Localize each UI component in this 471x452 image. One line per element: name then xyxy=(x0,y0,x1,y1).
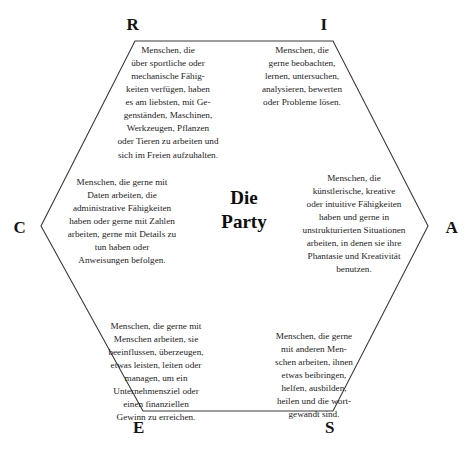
segment-text-conventional: Menschen, die gerne mit Daten arbeiten, … xyxy=(58,176,186,267)
segment-text-social: Menschen, die gerne mit anderen Men- sch… xyxy=(252,330,376,421)
center-label: Die Party xyxy=(196,186,292,234)
corner-letter-i: I xyxy=(304,16,344,33)
center-label-line-2: Party xyxy=(196,210,292,234)
segment-text-realistic: Menschen, die über sportliche oder mecha… xyxy=(108,44,228,162)
corner-letter-r: R xyxy=(113,16,153,33)
segment-text-artistic: Menschen, die künstlerische, kreative od… xyxy=(290,172,418,277)
segment-text-investigative: Menschen, die gerne beobachten, lernen, … xyxy=(243,44,361,109)
riasec-hexagon-diagram: R I C A E S Die Party Menschen, die über… xyxy=(0,0,471,452)
corner-letter-s: S xyxy=(310,419,350,436)
center-label-line-1: Die xyxy=(196,186,292,210)
corner-letter-c: C xyxy=(5,219,35,236)
corner-letter-a: A xyxy=(437,219,467,236)
segment-text-enterprising: Menschen, die gerne mit Menschen arbeite… xyxy=(88,320,224,425)
